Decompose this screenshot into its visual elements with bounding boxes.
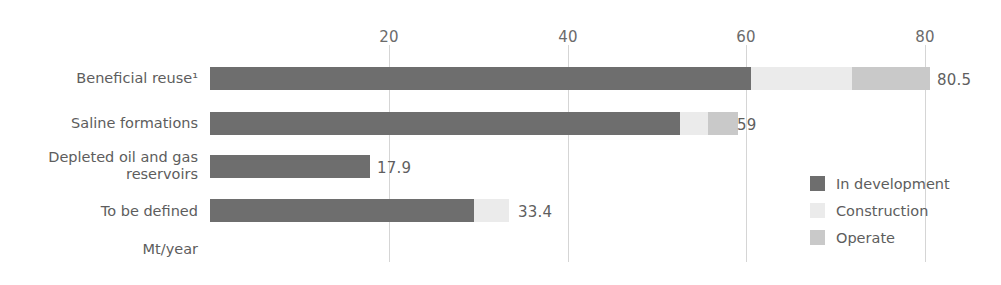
legend-label-in-development: In development [836,176,950,192]
legend-swatch-in-development-icon [810,176,825,191]
stacked-bar-chart: 20 40 60 80 Beneficial reuse¹ Saline for… [0,0,1001,285]
bar-segment-in-development [210,112,680,135]
bar-value-beneficial-reuse: 80.5 [937,71,971,89]
bar-segment-in-development [210,155,370,178]
bar-saline-formations[interactable] [210,112,738,135]
bar-depleted-oil-and-gas-reservoirs[interactable] [210,155,370,178]
bar-segment-construction [474,199,509,222]
x-tick-label-60: 60 [736,28,756,46]
bar-value-depleted-oil-and-gas-reservoirs: 17.9 [377,159,411,177]
legend-swatch-construction-icon [810,203,825,218]
legend-label-construction: Construction [836,203,928,219]
legend-label-operate: Operate [836,230,895,246]
x-tick-label-80: 80 [915,28,935,46]
legend-swatch-operate-icon [810,230,825,245]
bar-segment-in-development [210,199,474,222]
x-tick-label-40: 40 [558,28,578,46]
legend-item-in-development[interactable]: In development [810,170,950,197]
legend-item-construction[interactable]: Construction [810,197,950,224]
bar-to-be-defined[interactable] [210,199,509,222]
legend: In development Construction Operate [810,170,950,251]
x-tick-label-20: 20 [379,28,399,46]
bar-segment-operate [708,112,738,135]
category-label-beneficial-reuse: Beneficial reuse¹ [0,70,198,87]
bar-value-to-be-defined: 33.4 [518,203,552,221]
category-label-depleted-oil-and-gas-reservoirs: Depleted oil and gas reservoirs [0,149,198,183]
category-label-saline-formations: Saline formations [0,115,198,132]
category-label-to-be-defined: To be defined [0,203,198,220]
x-axis-unit-label: Mt/year [0,241,198,257]
bar-segment-construction [680,112,708,135]
bar-beneficial-reuse[interactable] [210,67,930,90]
bar-value-saline-formations: 59 [737,116,757,134]
bar-segment-operate [852,67,930,90]
legend-item-operate[interactable]: Operate [810,224,950,251]
bar-segment-in-development [210,67,751,90]
bar-segment-construction [751,67,852,90]
